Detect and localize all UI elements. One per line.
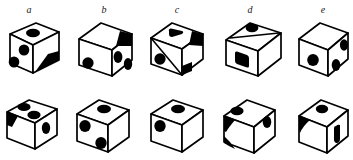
cube-bottom-a-pip-top-left xyxy=(17,103,30,111)
cube-top-e-pip-right-lower xyxy=(332,59,341,71)
column-label-a: a xyxy=(27,4,32,15)
cube-top-a-pip-left-lower xyxy=(9,56,20,67)
cube-top-d-pip-top xyxy=(246,24,259,32)
cube-bottom-b-pip-left-lower xyxy=(95,137,106,149)
cube-top-a-pip-left-upper xyxy=(19,44,30,55)
cube-top-e-pip-right-upper xyxy=(340,39,348,51)
column-label-c: c xyxy=(175,4,180,15)
cube-top-b-pip-left xyxy=(82,57,93,69)
cube-bottom-b-pip-left-upper xyxy=(79,120,90,132)
cube-bottom-d-pip-top xyxy=(230,107,243,115)
cube-figure-svg: a b c d e xyxy=(0,0,353,160)
cube-bottom-b-pip-top xyxy=(97,105,111,113)
cube-bottom-e-black-square xyxy=(334,125,340,143)
figure-root: a b c d e xyxy=(0,0,353,160)
cube-top-b-pip-right-lower xyxy=(124,58,132,70)
cube-top-c-pip-left xyxy=(154,53,165,65)
cube-bottom-a-pip-top-center xyxy=(27,111,40,119)
cube-bottom-d-pip-right xyxy=(263,116,272,128)
cube-bottom-c-pip-left xyxy=(154,120,165,132)
cube-bottom-a-pip-right xyxy=(42,122,50,134)
column-label-e: e xyxy=(321,4,326,15)
column-label-b: b xyxy=(102,4,107,15)
cube-bottom-c-pip-top xyxy=(171,105,185,113)
cube-top-a-pip-top xyxy=(26,29,40,37)
cube-top-b-pip-right-upper xyxy=(114,51,123,63)
cube-top-e-pip-left xyxy=(307,54,319,66)
cube-bottom-e-pip-top xyxy=(316,105,328,113)
